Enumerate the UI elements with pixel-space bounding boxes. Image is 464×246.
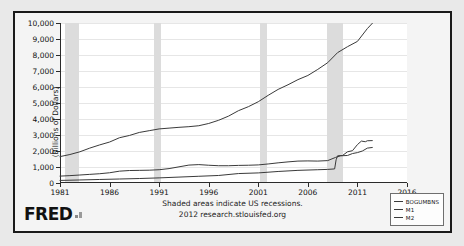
chart-legend: BOGUMBNSM1M2 <box>390 193 444 226</box>
x-axis-tick <box>159 183 160 187</box>
y-axis-tick-label: 0 <box>49 179 54 188</box>
legend-item-m1[interactable]: M1 <box>394 206 439 213</box>
legend-label: M2 <box>406 215 414 221</box>
x-axis-tick-label: 2001 <box>249 188 268 197</box>
x-axis-tick <box>110 183 111 187</box>
legend-swatch-icon <box>394 217 403 218</box>
x-axis-tick-label: 1986 <box>100 188 119 197</box>
y-axis-tick-label: 1,000 <box>33 163 54 172</box>
x-axis-tick <box>209 183 210 187</box>
fred-chart-figure: (Billions of Dollars) 01,0002,0003,0004,… <box>13 11 452 233</box>
y-axis-tick-label: 8,000 <box>33 51 54 60</box>
legend-swatch-icon <box>394 201 403 202</box>
x-axis-tick-label: 1981 <box>50 188 69 197</box>
fred-logo: FRED <box>24 206 84 223</box>
x-axis-tick <box>60 183 61 187</box>
x-axis-tick-label: 2006 <box>298 188 317 197</box>
legend-swatch-icon <box>394 209 403 210</box>
y-axis-tick-label: 7,000 <box>33 67 54 76</box>
legend-item-bogumbns[interactable]: BOGUMBNS <box>394 198 439 205</box>
x-axis-tick <box>308 183 309 187</box>
screenshot-root: (Billions of Dollars) 01,0002,0003,0004,… <box>0 0 464 246</box>
x-axis-tick <box>258 183 259 187</box>
y-axis-tick-label: 5,000 <box>33 99 54 108</box>
legend-item-m2[interactable]: M2 <box>394 214 439 221</box>
y-axis-tick-label: 10,000 <box>28 19 54 28</box>
figure-inner: (Billions of Dollars) 01,0002,0003,0004,… <box>15 13 450 231</box>
series-line-m2 <box>60 23 372 156</box>
x-axis-tick <box>407 183 408 187</box>
legend-label: BOGUMBNS <box>406 199 439 205</box>
plot-area: 01,0002,0003,0004,0005,0006,0007,0008,00… <box>60 23 407 183</box>
y-axis-tick-label: 4,000 <box>33 115 54 124</box>
legend-label: M1 <box>406 207 414 213</box>
fred-bar-mark-icon <box>75 209 84 218</box>
x-axis-tick-label: 1991 <box>150 188 169 197</box>
series-line-m1 <box>60 147 372 176</box>
y-axis-tick-label: 2,000 <box>33 147 54 156</box>
x-axis-tick <box>357 183 358 187</box>
x-axis-tick-label: 2011 <box>348 188 367 197</box>
series-lines <box>60 23 407 183</box>
y-axis-tick-label: 6,000 <box>33 83 54 92</box>
x-axis-tick-label: 1996 <box>199 188 218 197</box>
y-axis-tick-label: 3,000 <box>33 131 54 140</box>
y-axis-tick-label: 9,000 <box>33 35 54 44</box>
fred-logo-text: FRED <box>24 204 72 224</box>
